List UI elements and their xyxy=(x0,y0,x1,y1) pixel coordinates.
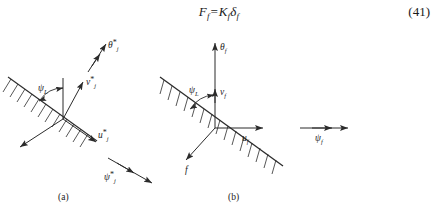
panel-b-u-label: uf xyxy=(242,133,250,145)
panel-a-v-label: v*j xyxy=(86,75,96,89)
panel-a-u-label: u*j xyxy=(98,128,109,142)
panel-a-caption: (a) xyxy=(58,192,69,203)
panel-a-v-arrow xyxy=(63,82,83,119)
panel-a-support-line xyxy=(8,77,97,141)
panel-a-theta-arrow-inner xyxy=(92,54,100,66)
panel-b-psi-angle-label: ψL xyxy=(189,85,199,97)
panel-b-theta-label: θf xyxy=(220,42,228,54)
panel-b-hatching xyxy=(160,80,276,174)
panel-b-force-label: f xyxy=(185,165,189,175)
panel-a-theta-label: θ*j xyxy=(108,38,119,52)
panel-b-psi-moment-label: ψf xyxy=(315,133,324,145)
panel-b-angle-arrow xyxy=(208,95,214,96)
mechanics-figure: θ*j v*j u*j ψ*j ψL (a) xyxy=(0,0,438,207)
panel-a-psi-angle-label: ψL xyxy=(38,83,48,95)
panel-b-caption: (b) xyxy=(228,192,239,203)
figure-page: Ff=Kfδf (41) xyxy=(0,0,438,207)
panel-a-psi-moment-label: ψ*j xyxy=(104,170,116,184)
panel-b-force-arrow xyxy=(186,128,215,160)
panel-a: θ*j v*j u*j ψ*j ψL (a) xyxy=(3,38,152,203)
panel-b: θf vf uf ψf ψL f (b) xyxy=(160,42,348,203)
panel-a-u-arrow xyxy=(63,119,96,142)
panel-a-psi-moment-arrow-inner xyxy=(117,163,134,173)
panel-b-v-label: vf xyxy=(220,87,227,99)
panel-a-force-arrow xyxy=(20,119,63,147)
